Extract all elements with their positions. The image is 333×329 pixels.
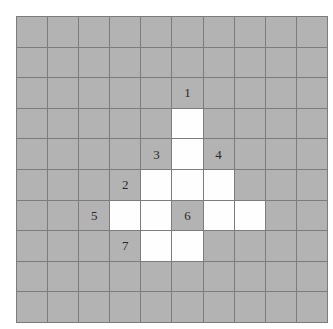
grid-cell[interactable] bbox=[48, 200, 79, 231]
grid-cell[interactable] bbox=[141, 292, 172, 323]
grid-cell[interactable] bbox=[17, 17, 48, 48]
grid-cell[interactable] bbox=[203, 108, 234, 139]
grid-cell[interactable] bbox=[203, 261, 234, 292]
grid-cell[interactable] bbox=[234, 108, 265, 139]
grid-cell[interactable] bbox=[172, 261, 203, 292]
grid-cell[interactable] bbox=[296, 108, 327, 139]
grid-cell[interactable] bbox=[79, 231, 110, 262]
grid-cell[interactable] bbox=[48, 108, 79, 139]
grid-cell[interactable] bbox=[110, 108, 141, 139]
grid-cell[interactable] bbox=[17, 292, 48, 323]
grid-cell[interactable] bbox=[203, 47, 234, 78]
grid-cell[interactable]: 1 bbox=[172, 78, 203, 109]
grid-cell[interactable] bbox=[172, 139, 203, 170]
grid-cell[interactable] bbox=[17, 231, 48, 262]
grid-cell[interactable] bbox=[48, 139, 79, 170]
grid-cell[interactable] bbox=[296, 17, 327, 48]
grid-cell[interactable] bbox=[234, 17, 265, 48]
grid-cell[interactable] bbox=[48, 17, 79, 48]
grid-cell[interactable] bbox=[172, 169, 203, 200]
grid-cell[interactable] bbox=[265, 108, 296, 139]
grid-cell[interactable] bbox=[79, 139, 110, 170]
grid-cell[interactable] bbox=[265, 47, 296, 78]
grid-cell[interactable] bbox=[17, 139, 48, 170]
grid-cell[interactable] bbox=[141, 108, 172, 139]
grid-cell[interactable] bbox=[141, 78, 172, 109]
grid-cell[interactable] bbox=[234, 261, 265, 292]
grid-cell[interactable] bbox=[79, 17, 110, 48]
grid-cell[interactable] bbox=[172, 108, 203, 139]
grid-cell[interactable] bbox=[110, 292, 141, 323]
grid-cell[interactable] bbox=[141, 200, 172, 231]
grid-cell[interactable] bbox=[17, 200, 48, 231]
grid-cell[interactable]: 4 bbox=[203, 139, 234, 170]
grid-cell[interactable] bbox=[265, 261, 296, 292]
grid-cell[interactable] bbox=[296, 139, 327, 170]
grid-cell[interactable] bbox=[296, 261, 327, 292]
grid-cell[interactable] bbox=[265, 139, 296, 170]
grid-cell[interactable] bbox=[79, 292, 110, 323]
grid-cell[interactable] bbox=[17, 261, 48, 292]
grid-cell[interactable] bbox=[296, 47, 327, 78]
grid-cell[interactable] bbox=[234, 47, 265, 78]
grid-cell[interactable] bbox=[203, 200, 234, 231]
grid-cell[interactable] bbox=[296, 200, 327, 231]
grid-cell[interactable] bbox=[265, 231, 296, 262]
grid-cell[interactable] bbox=[110, 139, 141, 170]
grid-cell[interactable] bbox=[265, 292, 296, 323]
grid-cell[interactable] bbox=[79, 78, 110, 109]
grid-cell[interactable] bbox=[296, 292, 327, 323]
grid-cell[interactable] bbox=[234, 169, 265, 200]
grid-cell[interactable] bbox=[265, 17, 296, 48]
grid-cell[interactable] bbox=[172, 231, 203, 262]
grid-cell[interactable] bbox=[234, 139, 265, 170]
grid-cell[interactable] bbox=[48, 78, 79, 109]
grid-cell[interactable] bbox=[17, 78, 48, 109]
grid-cell[interactable] bbox=[110, 47, 141, 78]
grid-cell[interactable] bbox=[141, 47, 172, 78]
grid-cell[interactable] bbox=[79, 169, 110, 200]
grid-cell[interactable] bbox=[234, 292, 265, 323]
grid-cell[interactable] bbox=[110, 200, 141, 231]
grid-cell[interactable] bbox=[110, 261, 141, 292]
grid-cell[interactable] bbox=[141, 261, 172, 292]
grid-cell[interactable] bbox=[110, 17, 141, 48]
grid-cell[interactable] bbox=[203, 231, 234, 262]
grid-cell[interactable] bbox=[203, 17, 234, 48]
grid-cell[interactable] bbox=[265, 78, 296, 109]
grid-cell[interactable] bbox=[203, 78, 234, 109]
grid-cell[interactable] bbox=[141, 17, 172, 48]
grid-cell[interactable] bbox=[48, 47, 79, 78]
grid-cell[interactable]: 3 bbox=[141, 139, 172, 170]
grid-cell[interactable] bbox=[265, 169, 296, 200]
grid-cell[interactable] bbox=[234, 231, 265, 262]
grid-cell[interactable] bbox=[48, 292, 79, 323]
grid-cell[interactable]: 6 bbox=[172, 200, 203, 231]
grid-cell[interactable] bbox=[110, 78, 141, 109]
grid-cell[interactable] bbox=[172, 292, 203, 323]
grid-cell[interactable] bbox=[172, 47, 203, 78]
grid-cell[interactable]: 7 bbox=[110, 231, 141, 262]
grid-cell[interactable] bbox=[296, 231, 327, 262]
grid-cell[interactable]: 5 bbox=[79, 200, 110, 231]
grid-cell[interactable] bbox=[48, 231, 79, 262]
grid-cell[interactable] bbox=[203, 292, 234, 323]
grid-cell[interactable] bbox=[79, 108, 110, 139]
grid-cell[interactable] bbox=[172, 17, 203, 48]
grid-cell[interactable] bbox=[79, 47, 110, 78]
grid-cell[interactable] bbox=[296, 169, 327, 200]
grid-cell[interactable] bbox=[141, 169, 172, 200]
grid-cell[interactable] bbox=[141, 231, 172, 262]
grid-cell[interactable] bbox=[48, 261, 79, 292]
grid-cell[interactable] bbox=[296, 78, 327, 109]
grid-cell[interactable] bbox=[203, 169, 234, 200]
grid-cell[interactable] bbox=[234, 200, 265, 231]
grid-cell[interactable] bbox=[234, 78, 265, 109]
grid-cell[interactable]: 2 bbox=[110, 169, 141, 200]
grid-cell[interactable] bbox=[17, 47, 48, 78]
grid-cell[interactable] bbox=[17, 108, 48, 139]
grid-cell[interactable] bbox=[48, 169, 79, 200]
grid-cell[interactable] bbox=[79, 261, 110, 292]
grid-cell[interactable] bbox=[265, 200, 296, 231]
grid-cell[interactable] bbox=[17, 169, 48, 200]
